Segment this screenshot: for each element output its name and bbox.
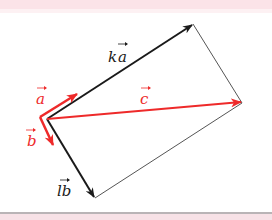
parallelogram-side-top-right [193,24,242,103]
svg-text:lb: lb [57,182,71,200]
vector-b [40,117,53,145]
label-vector-b: b [26,128,37,150]
label-vector-ka: ka [108,42,128,66]
svg-text:c: c [140,90,149,108]
svg-text:b: b [27,132,37,150]
svg-text:ka: ka [108,48,127,66]
vector-diagram: a b c ka lb [0,0,272,220]
svg-text:a: a [36,90,45,108]
label-vector-c: c [140,86,151,108]
vector-a [40,94,77,117]
label-vector-lb: lb [57,178,71,200]
parallelogram-side-bottom-right [95,103,242,198]
vector-ka [47,25,192,119]
label-vector-a: a [36,86,47,108]
